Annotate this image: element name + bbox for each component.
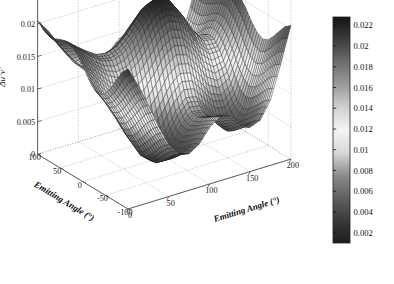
y-axis-title: Emitting Angle (°) <box>32 179 96 223</box>
tick-label: 50 <box>167 199 175 208</box>
colorbar-gradient <box>333 17 350 243</box>
tick-label: 0.015 <box>17 53 35 62</box>
colorbar-tick-label: 0.01 <box>354 145 369 155</box>
colorbar: 0.0020.0040.0060.0080.010.0120.0140.0160… <box>333 17 374 243</box>
colorbar-tick-label: 0.002 <box>354 228 373 238</box>
surface-mesh <box>38 0 291 163</box>
colorbar-tick-label: 0.022 <box>354 20 373 30</box>
tick-label: 0.005 <box>17 118 35 127</box>
tick-label: 200 <box>287 161 299 170</box>
tick-label: 150 <box>246 174 258 183</box>
tick-label: 0 <box>128 211 132 220</box>
tick-label: 100 <box>205 186 217 195</box>
colorbar-tick-label: 0.006 <box>354 186 374 196</box>
figure-container: 00.0050.010.0150.020.025-100-50050100050… <box>0 0 394 284</box>
colorbar-tick-label: 0.016 <box>354 83 374 93</box>
tick-label: 0.02 <box>21 20 35 29</box>
colorbar-tick-label: 0.004 <box>354 207 374 217</box>
colorbar-tick-label: 0.018 <box>354 62 373 72</box>
tick-label: 0 <box>78 181 82 190</box>
colorbar-tick-label: 0.02 <box>354 41 369 51</box>
tick-label: 100 <box>28 153 40 162</box>
z-axis-title: Δu’v’ <box>0 67 7 88</box>
tick-label: 50 <box>53 167 61 176</box>
colorbar-tick-label: 0.012 <box>354 124 373 134</box>
surface-plot-svg: 00.0050.010.0150.020.025-100-50050100050… <box>0 0 394 284</box>
colorbar-tick-label: 0.008 <box>354 166 373 176</box>
tick-label: 0.01 <box>21 85 35 94</box>
tick-label: -50 <box>97 194 108 203</box>
x-axis-title: Emitting Angle (°) <box>211 194 280 224</box>
colorbar-tick-label: 0.014 <box>354 103 374 113</box>
